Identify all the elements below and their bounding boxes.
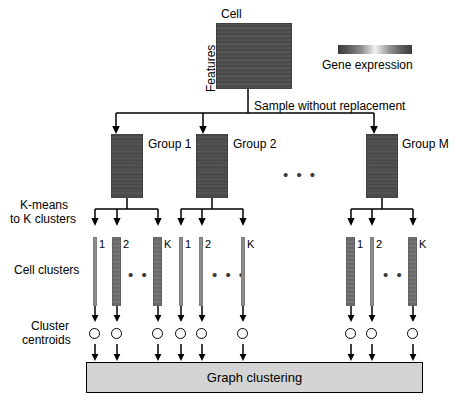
cluster-tick-group-1-2: 2: [123, 238, 129, 250]
sample-without-replacement-label: Sample without replacement: [254, 100, 405, 113]
cell-clusters-caption: Cell clusters: [14, 264, 79, 277]
cluster-bar-group-2-1: [179, 237, 183, 306]
cluster-tick-group-2-1: 1: [185, 238, 191, 250]
group-1-label: Group 1: [148, 138, 191, 151]
cluster-tick-group-m-2: 2: [376, 238, 382, 250]
cluster-tick-group-1-k: K: [164, 238, 171, 250]
centroid-circle-icon: [175, 328, 186, 339]
cluster-centroids-caption-line2: centroids: [22, 334, 71, 347]
group-m-label: Group M: [402, 138, 449, 151]
cluster-bar-group-m-1: [346, 237, 355, 306]
centroid-circle-icon: [196, 328, 207, 339]
diagram-canvas: Cell Features Gene expression: [0, 0, 455, 404]
expression-matrix-heatmap: [216, 23, 292, 89]
cluster-bar-group-2-k: [241, 237, 245, 306]
kmeans-caption-line1: K-means: [20, 199, 68, 212]
bars-to-centroids-arrows: [95, 306, 413, 316]
centroid-circle-icon: [111, 328, 122, 339]
matrix-col-label: Cell: [221, 8, 242, 21]
cluster-bar-group-1-1: [93, 237, 97, 306]
centroid-circle-icon: [407, 328, 418, 339]
cluster-bar-group-m-2: [370, 237, 374, 306]
cluster-tick-group-m-k: K: [419, 238, 426, 250]
group-2-heatmap: [196, 134, 228, 198]
cluster-tick-group-1-1: 1: [99, 238, 105, 250]
matrix-row-label-wrap: Features: [205, 92, 252, 105]
cluster-bar-group-1-2: [112, 237, 121, 306]
centroid-circle-icon: [89, 328, 100, 339]
centroids-to-output-arrows: [95, 344, 413, 355]
cluster-bar-group-2-2: [199, 237, 203, 306]
cluster-centroids-caption-line1: Cluster: [31, 320, 69, 333]
kmeans-split-group-1: [95, 198, 158, 219]
group-m-heatmap: [366, 134, 398, 198]
groups-ellipsis: • • •: [283, 167, 317, 182]
cluster-bar-group-m-k: [408, 237, 417, 306]
cluster-tick-group-2-k: K: [247, 238, 254, 250]
cluster-bar-group-1-k: [153, 237, 162, 306]
kmeans-caption-line2: to K clusters: [10, 213, 76, 226]
gene-expression-colorbar-icon: [338, 45, 412, 54]
group-1-heatmap: [111, 134, 143, 198]
kmeans-split-group-2: [181, 198, 243, 219]
centroid-circle-icon: [345, 328, 356, 339]
cluster-tick-group-m-1: 1: [357, 238, 363, 250]
gene-expression-legend-label: Gene expression: [322, 59, 413, 72]
group-2-label: Group 2: [233, 138, 276, 151]
graph-clustering-box: Graph clustering: [86, 362, 423, 393]
cluster-tick-group-2-2: 2: [205, 238, 211, 250]
centroid-circle-icon: [152, 328, 163, 339]
centroid-circle-icon: [366, 328, 377, 339]
graph-clustering-label: Graph clustering: [207, 370, 302, 385]
centroid-circle-icon: [237, 328, 248, 339]
sampling-arrowheads: [112, 126, 378, 134]
kmeans-split-group-m: [351, 198, 413, 219]
